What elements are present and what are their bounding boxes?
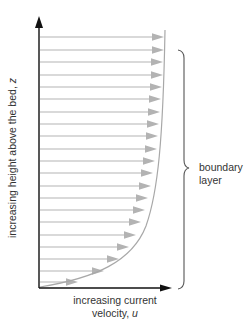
x-axis-label-line1: increasing current xyxy=(60,294,170,307)
velocity-arrowhead-icon xyxy=(151,71,163,79)
x-axis-symbol: u xyxy=(132,307,138,319)
velocity-arrowhead-icon xyxy=(141,169,153,177)
boundary-layer-label-line1: boundary xyxy=(199,161,243,174)
velocity-arrowhead-icon xyxy=(152,33,164,41)
y-axis-arrowhead-icon xyxy=(35,16,43,28)
y-axis-label-text: increasing height above the bed, xyxy=(6,86,18,238)
velocity-arrowhead-icon xyxy=(147,120,159,128)
velocity-arrowhead-icon xyxy=(145,145,157,153)
velocity-arrowhead-icon xyxy=(139,182,151,190)
velocity-arrowhead-icon xyxy=(146,132,158,140)
boundary-layer-label-line2: layer xyxy=(199,174,243,187)
x-axis-label: increasing current velocity, u xyxy=(60,294,170,320)
boundary-layer-brace xyxy=(178,50,189,289)
velocity-arrowhead-icon xyxy=(151,58,163,66)
velocity-arrowhead-icon xyxy=(124,231,136,239)
velocity-arrowhead-icon xyxy=(148,108,160,116)
velocity-arrowhead-icon xyxy=(136,194,148,202)
velocity-arrowhead-icon xyxy=(150,83,162,91)
x-axis-arrowhead-icon xyxy=(160,285,172,292)
velocity-arrowhead-icon xyxy=(117,243,129,251)
boundary-layer-label: boundary layer xyxy=(199,161,243,187)
velocity-arrowhead-icon xyxy=(133,206,145,214)
velocity-arrowhead-icon xyxy=(143,157,155,165)
velocity-arrowhead-icon xyxy=(129,218,141,226)
y-axis-label: increasing height above the bed, z xyxy=(6,78,18,238)
velocity-arrowhead-icon xyxy=(149,95,161,103)
velocity-arrows xyxy=(40,33,164,286)
y-axis-symbol: z xyxy=(6,78,18,83)
x-axis-label-line2: velocity, xyxy=(92,307,129,319)
velocity-arrowhead-icon xyxy=(152,46,164,54)
